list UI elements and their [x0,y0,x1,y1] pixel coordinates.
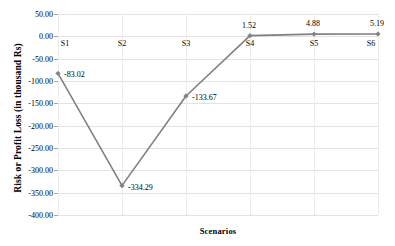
data-point-marker-S6 [376,32,380,36]
y-tick-label: 50.00 [35,10,53,19]
data-label-S5: 4.88 [306,19,320,28]
y-tick-label: -100.00 [28,77,53,86]
data-label-S4: 1.52 [242,20,256,29]
y-tick-label: -200.00 [28,121,53,130]
y-tick-label: -400.00 [28,211,53,220]
series-polyline [58,34,378,186]
y-tick-label: 0.00 [39,32,53,41]
y-tick-mark [54,215,58,216]
y-tick-label: -150.00 [28,99,53,108]
x-axis-title: Scenarios [58,226,378,236]
data-label-S1: -83.02 [64,70,85,79]
line-chart: Risk or Profit Loss (in thousand Rs) 50.… [0,0,395,246]
gridline-x-S6 [378,14,379,215]
data-point-marker-S5 [312,32,316,36]
y-tick-label: -250.00 [28,144,53,153]
data-label-S3: -133.67 [192,93,217,102]
gridline-y--400 [58,215,378,216]
y-tick-label: -350.00 [28,188,53,197]
y-tick-label: -50.00 [32,54,53,63]
y-axis-title: Risk or Profit Loss (in thousand Rs) [13,8,23,228]
y-tick-label: -300.00 [28,166,53,175]
data-label-S6: 5.19 [370,19,384,28]
data-label-S2: -334.29 [128,182,153,191]
plot-area: 50.000.00-50.00-100.00-150.00-200.00-250… [58,14,378,215]
data-series-line [58,14,378,215]
